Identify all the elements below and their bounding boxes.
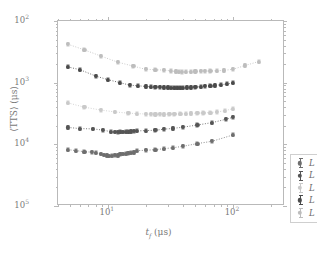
x-tick-label-base: 10 xyxy=(225,207,236,217)
y-tick-minor-right xyxy=(283,96,286,97)
legend-marker-icon xyxy=(294,182,307,194)
legend-label: L = 15 xyxy=(307,196,317,205)
y-tick-label-exponent: 3 xyxy=(25,75,29,82)
legend-label-value: = 13 xyxy=(315,170,317,180)
legend-marker-icon xyxy=(294,157,307,169)
x-tick-minor xyxy=(214,204,215,207)
y-tick-label-exponent: 4 xyxy=(25,137,29,144)
legend-item-16[interactable]: L = 16 xyxy=(294,207,317,219)
x-tick-minor xyxy=(80,204,81,207)
y-tick-minor-right xyxy=(283,126,286,127)
legend-error-cap-top xyxy=(299,158,303,159)
x-tick-minor xyxy=(271,204,272,207)
legend-label-value: = 16 xyxy=(315,208,317,218)
y-tick-minor-right xyxy=(283,187,286,188)
legend-error-cap-bottom xyxy=(299,192,303,193)
x-tick-minor xyxy=(205,204,206,207)
legend-label: L = 13 xyxy=(307,171,317,180)
y-tick-minor-right xyxy=(283,24,286,25)
legend-label-value: = 15 xyxy=(315,195,317,205)
y-tick-minor-right xyxy=(283,35,286,36)
x-tick-minor xyxy=(102,204,103,207)
x-tick-major xyxy=(233,204,234,208)
x-tick-label-base: 10 xyxy=(99,207,110,217)
y-tick-minor-right xyxy=(283,64,286,65)
x-tick-minor xyxy=(221,204,222,207)
legend-error-cap-bottom xyxy=(299,204,303,205)
x-tick-label-exponent: 2 xyxy=(236,205,240,212)
legend-error-cap-top xyxy=(299,208,303,209)
legend-marker-dot xyxy=(298,161,302,165)
y-tick-minor-right xyxy=(283,169,286,170)
y-tick-minor-right xyxy=(283,89,286,90)
legend-marker-icon xyxy=(294,170,307,182)
legend-marker-icon xyxy=(294,207,307,219)
legend-label: L = 12 xyxy=(307,159,317,168)
legend-label: L = 14 xyxy=(307,184,317,193)
y-tick-minor-right xyxy=(283,27,286,28)
legend-label-value: = 14 xyxy=(315,183,317,193)
legend-marker-dot xyxy=(298,173,302,177)
y-tick-minor-right xyxy=(283,101,286,102)
legend: L = 12L = 13L = 14L = 15L = 16 xyxy=(290,154,317,223)
x-tick-minor xyxy=(88,204,89,207)
legend-error-cap-bottom xyxy=(299,217,303,218)
y-tick-major-right xyxy=(283,206,287,207)
legend-error-cap-bottom xyxy=(299,180,303,181)
legend-marker-dot xyxy=(298,211,302,215)
legend-error-cap-bottom xyxy=(299,167,303,168)
legend-marker-dot xyxy=(298,198,302,202)
x-axis-title-subscript: f xyxy=(149,232,151,239)
y-tick-minor-right xyxy=(283,177,286,178)
x-tick-major xyxy=(108,204,109,208)
legend-label-value: = 12 xyxy=(315,158,317,168)
x-tick-minor xyxy=(227,204,228,207)
legend-error-cap-top xyxy=(299,171,303,172)
legend-item-14[interactable]: L = 14 xyxy=(294,182,317,194)
x-tick-minor xyxy=(70,204,71,207)
y-tick-minor-right xyxy=(283,40,286,41)
y-tick-minor-right xyxy=(283,150,286,151)
legend-label: L = 16 xyxy=(307,209,317,218)
y-tick-major-right xyxy=(283,21,287,22)
x-axis-title: tf (μs) xyxy=(0,227,317,237)
y-tick-minor-right xyxy=(283,147,286,148)
x-tick-minor xyxy=(146,204,147,207)
legend-marker-icon xyxy=(294,194,307,206)
y-tick-minor-right xyxy=(283,92,286,93)
y-tick-minor-right xyxy=(283,158,286,159)
x-tick-minor xyxy=(195,204,196,207)
x-tick-minor xyxy=(96,204,97,207)
y-tick-minor-right xyxy=(283,115,286,116)
x-tick-minor xyxy=(183,204,184,207)
x-tick-minor xyxy=(168,204,169,207)
y-axis-title: ⟨TTS⟩ (μs) xyxy=(9,9,19,209)
figure-container: 105104103102 101102 ⟨TTS⟩ (μs) tf (μs) L… xyxy=(0,0,317,255)
x-tick-label: 102 xyxy=(225,208,240,217)
x-axis-title-unit: (μs) xyxy=(154,227,172,237)
x-tick-label-exponent: 1 xyxy=(110,205,114,212)
x-tick-label: 101 xyxy=(99,208,114,217)
legend-error-cap-top xyxy=(299,195,303,196)
y-tick-minor-right xyxy=(283,53,286,54)
y-tick-minor-right xyxy=(283,163,286,164)
y-tick-minor-right xyxy=(283,85,286,86)
y-tick-major-right xyxy=(283,144,287,145)
legend-error-cap-top xyxy=(299,183,303,184)
plot-area xyxy=(58,21,283,204)
y-tick-label-exponent: 5 xyxy=(25,198,29,205)
y-tick-label-exponent: 2 xyxy=(25,13,29,20)
x-tick-minor xyxy=(58,204,59,207)
y-tick-minor-right xyxy=(283,46,286,47)
legend-item-15[interactable]: L = 15 xyxy=(294,194,317,206)
y-tick-minor-right xyxy=(283,107,286,108)
legend-item-12[interactable]: L = 12 xyxy=(294,157,317,169)
legend-item-13[interactable]: L = 13 xyxy=(294,169,317,181)
plot-frame: L = 12L = 13L = 14L = 15L = 16 xyxy=(57,20,284,205)
y-tick-major-right xyxy=(283,83,287,84)
legend-marker-dot xyxy=(298,186,302,190)
y-tick-minor-right xyxy=(283,31,286,32)
y-tick-minor-right xyxy=(283,154,286,155)
